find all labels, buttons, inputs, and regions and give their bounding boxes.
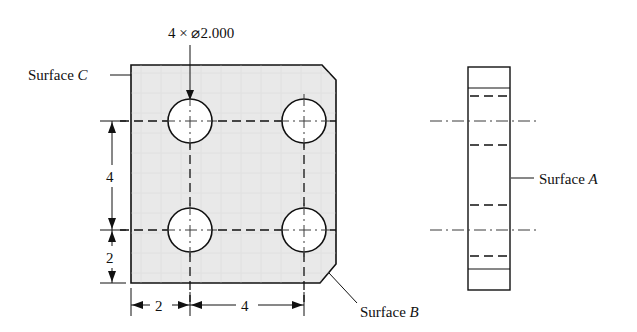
arrow-left-first xyxy=(132,301,143,309)
hole-callout-label: 4 × ⌀2.000 xyxy=(168,25,234,41)
arrow-right-second xyxy=(292,301,303,309)
front-view xyxy=(120,65,336,302)
arrow-left-second xyxy=(191,301,202,309)
surface-c-group: Surface C xyxy=(28,67,131,83)
surface-a-label: Surface A xyxy=(539,171,599,187)
vertical-dimensions: 4 2 xyxy=(100,121,126,283)
arrow-right-first xyxy=(178,301,189,309)
arrow-down-upper xyxy=(108,218,116,229)
surface-b-leader xyxy=(329,273,357,303)
dimension-horizontal-left: 2 xyxy=(155,298,163,314)
arrow-up-upper xyxy=(108,122,116,133)
surface-b-group: Surface B xyxy=(329,273,419,320)
dimension-vertical-lower: 2 xyxy=(106,250,114,266)
surface-c-label: Surface C xyxy=(28,67,89,83)
engineering-drawing-canvas: 4 × ⌀2.000 Surface C Surface B 4 xyxy=(0,0,637,332)
technical-drawing-page: 4 × ⌀2.000 Surface C Surface B 4 xyxy=(0,0,637,332)
horizontal-dimensions: 2 4 xyxy=(131,288,304,316)
surface-a-group: Surface A xyxy=(511,171,599,187)
dimension-horizontal-right: 4 xyxy=(241,298,249,314)
surface-b-label: Surface B xyxy=(360,304,419,320)
arrow-up-lower xyxy=(108,231,116,242)
dimension-vertical-upper: 4 xyxy=(106,169,114,185)
arrow-down-lower xyxy=(108,271,116,282)
